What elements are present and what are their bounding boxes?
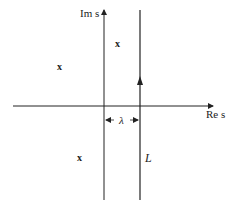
pole-marker-icon: x <box>77 152 82 163</box>
pole-marker-icon: x <box>57 61 62 72</box>
complex-plane-diagram: Im s Re s λ L x x x <box>0 0 239 205</box>
real-axis-label: Re s <box>206 108 225 120</box>
pole-marker-icon: x <box>115 38 120 49</box>
contour-direction-arrow-icon <box>137 76 143 85</box>
lambda-label: λ <box>118 114 124 126</box>
contour-label: L <box>144 151 152 165</box>
imaginary-axis-label: Im s <box>80 7 99 19</box>
